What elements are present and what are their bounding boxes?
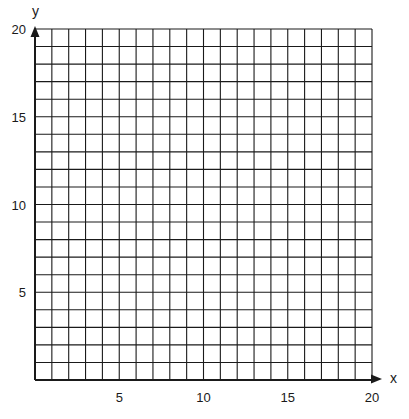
x-axis-label: x bbox=[390, 370, 397, 386]
y-axis-label: y bbox=[32, 3, 39, 19]
x-tick-labels: 5101520 bbox=[116, 390, 380, 405]
x-tick-label: 5 bbox=[116, 390, 123, 405]
x-axis-arrow-icon bbox=[371, 375, 382, 384]
x-tick-label: 20 bbox=[365, 390, 379, 405]
x-tick-label: 10 bbox=[196, 390, 210, 405]
y-tick-label: 5 bbox=[19, 285, 26, 300]
y-tick-label: 20 bbox=[12, 22, 26, 37]
grid-lines bbox=[35, 29, 372, 380]
x-tick-label: 15 bbox=[281, 390, 295, 405]
coordinate-grid-chart: x y 5101520 5101520 bbox=[0, 0, 409, 419]
y-tick-labels: 5101520 bbox=[12, 22, 26, 300]
y-tick-label: 15 bbox=[12, 110, 26, 125]
y-tick-label: 10 bbox=[12, 198, 26, 213]
y-axis-arrow-icon bbox=[31, 26, 40, 37]
